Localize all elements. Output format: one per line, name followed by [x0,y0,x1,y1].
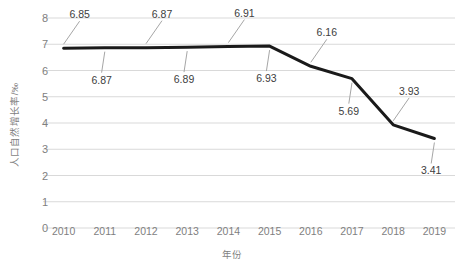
data-label-leader-line [146,21,162,44]
data-label: 6.91 [234,7,254,19]
y-axis-tick-label: 1 [22,196,48,208]
data-label: 5.69 [339,105,359,117]
data-label: 6.16 [317,26,337,38]
x-axis-tick-label: 2017 [340,225,363,237]
x-axis-tick-label: 2013 [176,225,199,237]
x-axis-tick-label: 2018 [382,225,405,237]
data-label-leader-line [102,52,105,73]
data-label-leader-line [431,142,434,163]
line-chart: 012345678 201020112012201320142015201620… [0,0,464,273]
data-label: 6.89 [174,73,194,85]
y-axis-tick-label: 2 [22,170,48,182]
data-label: 3.41 [421,164,441,176]
data-label: 6.85 [69,8,89,20]
y-axis-title: 人口自然增长率/‰ [7,75,21,175]
data-label: 6.87 [152,8,172,20]
y-axis-tick-label: 7 [22,38,48,50]
data-label-leader-line [184,51,187,72]
y-axis-tick-label: 6 [22,65,48,77]
x-axis-tick-label: 2010 [52,225,75,237]
data-label-leader-line [228,20,244,43]
y-axis-tick-label: 3 [22,143,48,155]
data-line-series [64,46,435,138]
y-axis-tick-label: 4 [22,117,48,129]
x-axis-tick-label: 2014 [217,225,240,237]
x-axis-tick-label: 2016 [299,225,322,237]
x-axis-tick-label: 2015 [258,225,281,237]
data-label-leader-line [349,83,352,104]
data-label-leader-line [311,39,327,62]
data-label: 6.87 [91,74,111,86]
x-axis-tick-label: 2012 [134,225,157,237]
x-axis-tick-label: 2011 [94,225,117,237]
data-label-leader-line [393,98,409,121]
y-axis-tick-label: 5 [22,91,48,103]
x-axis-tick-label: 2019 [423,225,446,237]
y-axis-tick-label: 8 [22,12,48,24]
data-label-leader-line [64,21,80,44]
data-label-leader-line [266,50,269,71]
x-axis-title: 年份 [0,247,464,261]
x-axis-tick-labels: 2010201120122013201420152016201720182019 [0,225,464,245]
data-label: 3.93 [399,85,419,97]
data-label: 6.93 [256,72,276,84]
